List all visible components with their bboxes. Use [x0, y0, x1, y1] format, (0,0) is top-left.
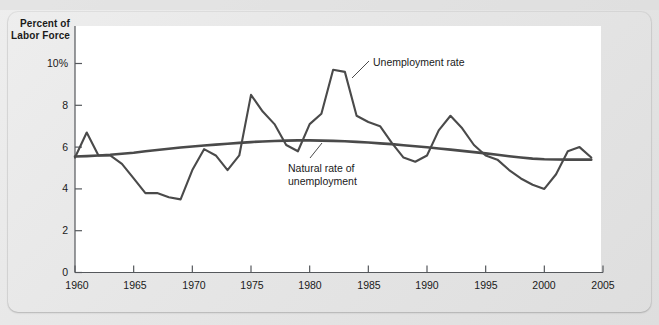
y-tick-marks [75, 64, 82, 273]
unemployment-chart-figure: Percent of Labor Force 10% 8 6 4 2 0 196… [0, 0, 659, 325]
x-tick-marks [75, 266, 603, 273]
data-series [75, 70, 591, 200]
unemployment-rate-line [75, 70, 591, 200]
natural-rate-line [75, 140, 591, 159]
annotation-leader-lines [310, 61, 369, 158]
page-background: Percent of Labor Force 10% 8 6 4 2 0 196… [0, 0, 659, 325]
plot-svg [0, 0, 659, 325]
